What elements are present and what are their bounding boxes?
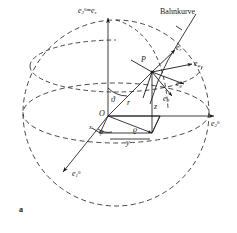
- e-theta-sub: ϑ: [167, 98, 169, 103]
- axis-line-e1: [63, 116, 108, 172]
- figure-caption: a: [19, 206, 23, 214]
- unit-vector-e-phi: [152, 64, 192, 72]
- e2-sup: 0: [217, 120, 219, 125]
- base-plane-edge: [152, 116, 160, 133]
- coordinate-label-y: y: [126, 139, 130, 147]
- axis-label-e2: e20: [211, 120, 220, 129]
- coordinate-label-x: x: [89, 124, 92, 131]
- trajectory-curve: [150, 14, 196, 104]
- coordinate-label-r: r: [127, 99, 130, 107]
- sphere-latitude-arc-left: [30, 40, 116, 66]
- label-e-rho: eϱ: [176, 80, 182, 89]
- label-e-theta: eϑ: [163, 95, 169, 104]
- axis-e3-second-sub: z: [95, 10, 97, 15]
- figure-spherical-coordinates: e30=ez Bahnkurve P er eφ eϱ eϑ e20 e10 O…: [0, 0, 237, 233]
- label-e-r: er: [176, 44, 182, 53]
- trajectory-leader: [176, 26, 182, 30]
- axis-label-e3: e30=ez: [78, 7, 97, 16]
- cylindrical-radius-rho: [108, 116, 152, 133]
- angle-label-theta: ϑ: [111, 96, 115, 104]
- e-r-sub: r: [180, 47, 182, 52]
- e1-sup: 0: [78, 170, 80, 175]
- origin-label-O: O: [99, 110, 105, 118]
- coordinate-label-rho: ϱ: [133, 126, 137, 134]
- point-label-P: P: [141, 56, 146, 64]
- coordinate-label-z: z: [154, 103, 157, 111]
- trajectory-label: Bahnkurve: [160, 8, 195, 16]
- point-P-marker: [151, 71, 154, 74]
- e-rho-sub: ϱ: [180, 83, 183, 88]
- angle-label-phi: φ: [99, 128, 103, 136]
- radius-vector-r: [108, 72, 152, 116]
- diagram-canvas: [0, 0, 237, 233]
- label-e-phi: eφ: [194, 60, 200, 69]
- e-phi-sub: φ: [198, 63, 201, 68]
- axis-label-e1: e10: [72, 170, 81, 179]
